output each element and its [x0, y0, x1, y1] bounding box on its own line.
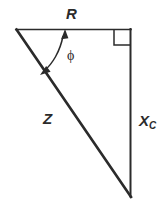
- reactance-label: XC: [139, 113, 156, 128]
- right-angle-marker-icon: [114, 30, 130, 45]
- impedance-label: Z: [43, 111, 52, 126]
- reactance-label-base: X: [139, 112, 149, 129]
- angle-arc-arrowhead-top-icon: [61, 29, 68, 39]
- reactance-label-subscript: C: [149, 120, 156, 131]
- triangle-drawing: [0, 0, 165, 209]
- phase-angle-label: ϕ: [67, 49, 74, 63]
- resistance-label: R: [66, 6, 77, 21]
- impedance-triangle-figure: R Z XC ϕ: [0, 0, 165, 209]
- angle-arc: [45, 36, 63, 70]
